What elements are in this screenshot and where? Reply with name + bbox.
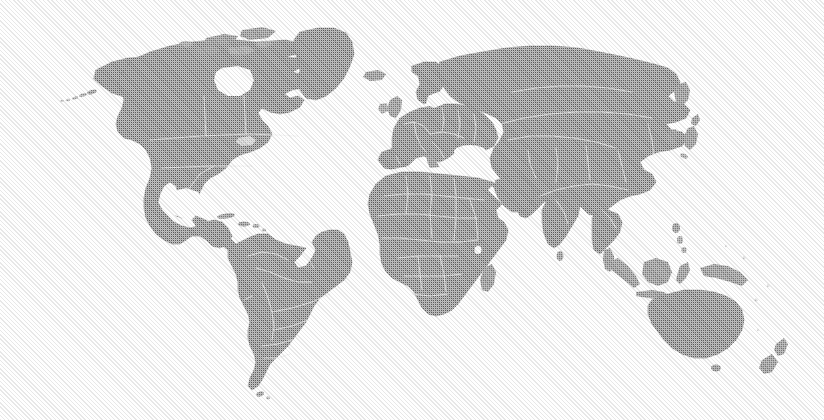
- world-map-svg: [0, 0, 824, 420]
- map-canvas: [0, 0, 824, 420]
- landmass-sri-lanka: [557, 251, 564, 261]
- landmass-tasmania: [711, 365, 721, 372]
- world-map-figure: [0, 0, 824, 420]
- waterbody-lake-victoria: [475, 246, 482, 254]
- waterbody-black-sea: [454, 145, 486, 159]
